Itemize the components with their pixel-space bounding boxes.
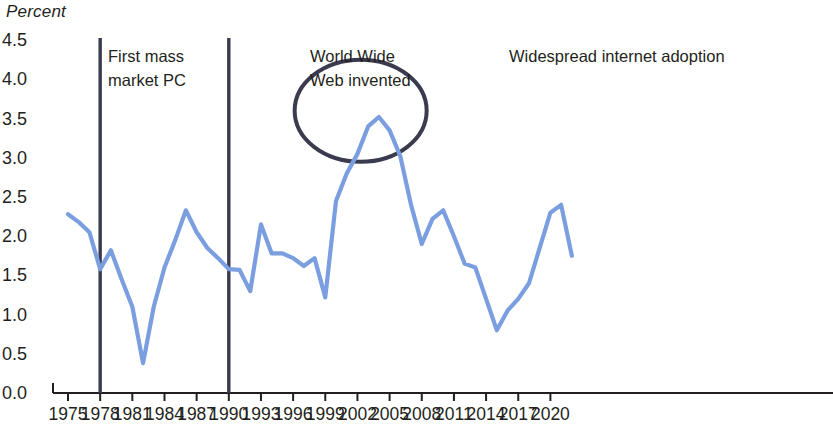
annotation-widespread-internet-adoption: Widespread internet adoption	[509, 45, 725, 69]
y-tick-label: 3.0	[2, 149, 46, 167]
y-tick-label: 0.5	[2, 345, 46, 363]
y-tick-label: 3.5	[2, 110, 46, 128]
y-tick-label: 4.0	[2, 70, 46, 88]
y-tick-label: 2.5	[2, 188, 46, 206]
chart-figure: Percent 0.00.51.01.52.02.53.03.54.04.5 1…	[0, 0, 833, 434]
annotation-world-wide-web-invented: World Wide Web invented	[310, 45, 411, 93]
x-tick-label: 2020	[531, 406, 570, 424]
y-tick-label: 0.0	[2, 384, 46, 402]
annotation-first-mass-market-pc: First mass market PC	[108, 45, 186, 93]
y-axis-title: Percent	[6, 2, 66, 22]
y-tick-label: 1.0	[2, 306, 46, 324]
series-line	[68, 117, 572, 363]
y-tick-label: 1.5	[2, 266, 46, 284]
data-series-group	[68, 117, 572, 363]
axis-lines	[53, 383, 833, 401]
y-tick-label: 4.5	[2, 31, 46, 49]
y-tick-label: 2.0	[2, 227, 46, 245]
